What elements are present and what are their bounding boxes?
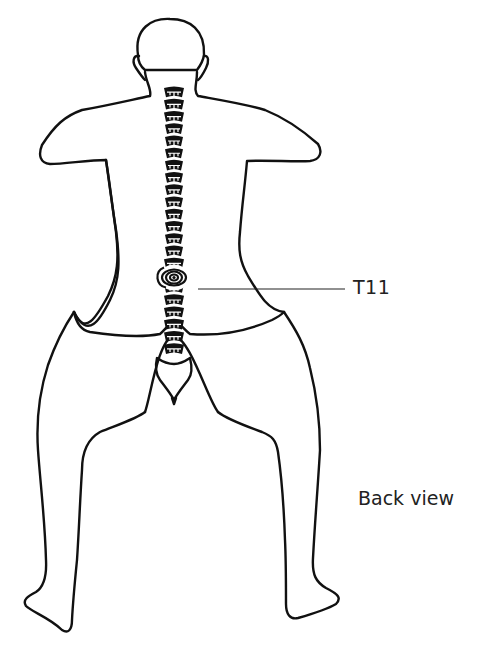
vertebra [165,160,183,171]
vertebra [165,135,183,146]
back-view-caption: Back view [358,487,454,509]
right-side-outline [195,72,320,312]
t11-center-dot [172,276,175,279]
left-leg-outline [25,312,145,632]
torso-outline [40,72,150,326]
vertebra [164,111,184,122]
vertebra [164,331,184,342]
right-leg-outline [218,312,339,618]
vertebra [165,209,183,220]
vertebra [165,233,183,244]
vertebra [165,172,183,183]
back-view-figure: T11 Back view [0,0,486,662]
head-outline [137,19,204,70]
vertebra [165,197,183,208]
vertebra [164,87,184,98]
vertebra [165,148,183,159]
vertebra [165,221,183,232]
vertebra [164,307,184,318]
body-diagram [0,0,486,662]
spine [157,87,189,355]
sacrum [156,358,191,400]
vertebra [165,245,183,256]
vertebra [164,99,184,110]
vertebra [164,319,184,330]
vertebra [164,343,184,354]
vertebra [164,294,184,305]
vertebra [165,123,183,134]
t11-label: T11 [353,276,390,298]
vertebra [165,184,183,195]
